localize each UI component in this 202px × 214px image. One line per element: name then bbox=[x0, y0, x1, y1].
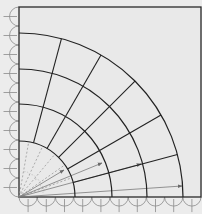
left-scallop-edge bbox=[4, 7, 20, 197]
diagram-canvas bbox=[0, 0, 202, 214]
bottom-scallop-edge bbox=[19, 197, 201, 212]
polar-grid-diagram bbox=[0, 0, 202, 214]
